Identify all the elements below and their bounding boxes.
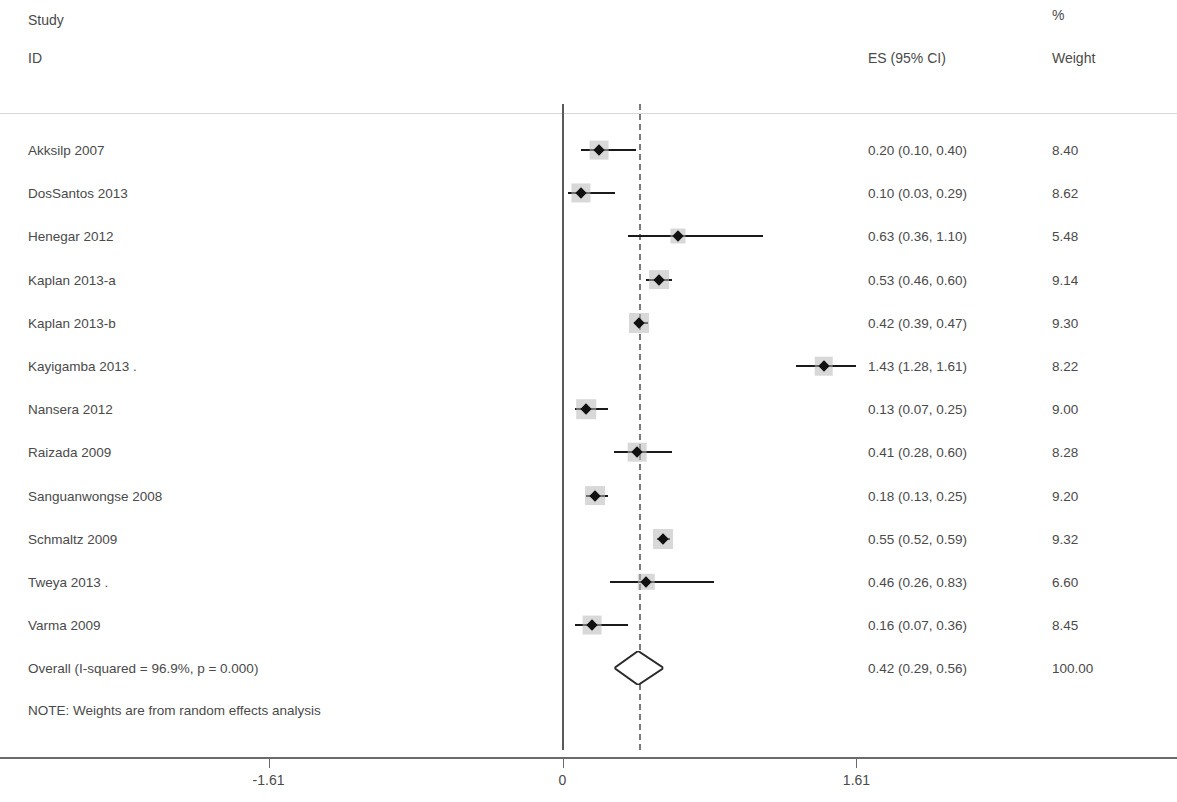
- effect-size-value: 0.16 (0.07, 0.36): [868, 618, 967, 633]
- x-axis-tick: [856, 757, 857, 768]
- effect-size-value: 1.43 (1.28, 1.61): [868, 359, 967, 374]
- weight-value: 8.62: [1052, 186, 1078, 201]
- study-label: Kayigamba 2013 .: [28, 359, 137, 374]
- effect-size-value: 0.55 (0.52, 0.59): [868, 531, 967, 546]
- column-header-weight: Weight: [1052, 50, 1095, 66]
- study-label: Henegar 2012: [28, 229, 114, 244]
- weight-value: 9.32: [1052, 531, 1078, 546]
- study-label: Nansera 2012: [28, 402, 113, 417]
- study-label: Akksilp 2007: [28, 143, 105, 158]
- zero-reference-line: [562, 104, 564, 750]
- study-label: Tweya 2013 .: [28, 575, 108, 590]
- x-axis-tick-label: 0: [559, 772, 567, 788]
- study-label: DosSantos 2013: [28, 186, 128, 201]
- study-label: Raizada 2009: [28, 445, 111, 460]
- weight-value: 8.45: [1052, 618, 1078, 633]
- confidence-interval-line: [610, 581, 714, 583]
- weight-value: 8.40: [1052, 143, 1078, 158]
- weight-value: 9.00: [1052, 402, 1078, 417]
- effect-size-value: 0.63 (0.36, 1.10): [868, 229, 967, 244]
- x-axis-tick: [563, 757, 564, 768]
- weight-value: 9.30: [1052, 315, 1078, 330]
- weight-value: 9.20: [1052, 488, 1078, 503]
- column-header-es: ES (95% CI): [868, 50, 946, 66]
- study-label: Kaplan 2013-a: [28, 272, 116, 287]
- study-label: Schmaltz 2009: [28, 531, 117, 546]
- study-label: Varma 2009: [28, 618, 101, 633]
- weight-value: 9.14: [1052, 272, 1078, 287]
- effect-size-value: 0.53 (0.46, 0.60): [868, 272, 967, 287]
- effect-size-value: 0.18 (0.13, 0.25): [868, 488, 967, 503]
- header-divider: [0, 113, 1177, 114]
- x-axis-tick: [269, 757, 270, 768]
- overall-label: Overall (I-squared = 96.9%, p = 0.000): [28, 661, 258, 676]
- x-axis-tick-label: -1.61: [253, 772, 285, 788]
- effect-size-value: 0.20 (0.10, 0.40): [868, 143, 967, 158]
- effect-size-value: 0.41 (0.28, 0.60): [868, 445, 967, 460]
- effect-size-value: 0.42 (0.39, 0.47): [868, 315, 967, 330]
- effect-size-value: 0.10 (0.03, 0.29): [868, 186, 967, 201]
- weight-value: 8.22: [1052, 359, 1078, 374]
- weight-value: 6.60: [1052, 575, 1078, 590]
- column-header-id: ID: [28, 50, 42, 66]
- study-label: Sanguanwongse 2008: [28, 488, 162, 503]
- weight-value: 100.00: [1052, 661, 1093, 676]
- note-text: NOTE: Weights are from random effects an…: [28, 703, 321, 718]
- column-header-percent: %: [1052, 7, 1064, 23]
- study-label: Kaplan 2013-b: [28, 315, 116, 330]
- confidence-interval-line: [628, 235, 763, 237]
- x-axis-line: [0, 757, 1177, 759]
- weight-value: 8.28: [1052, 445, 1078, 460]
- effect-size-value: 0.46 (0.26, 0.83): [868, 575, 967, 590]
- x-axis-tick-label: 1.61: [843, 772, 870, 788]
- effect-size-value: 0.13 (0.07, 0.25): [868, 402, 967, 417]
- overall-diamond: [615, 651, 664, 685]
- effect-size-value: 0.42 (0.29, 0.56): [868, 661, 967, 676]
- weight-value: 5.48: [1052, 229, 1078, 244]
- column-header-study: Study: [28, 12, 64, 28]
